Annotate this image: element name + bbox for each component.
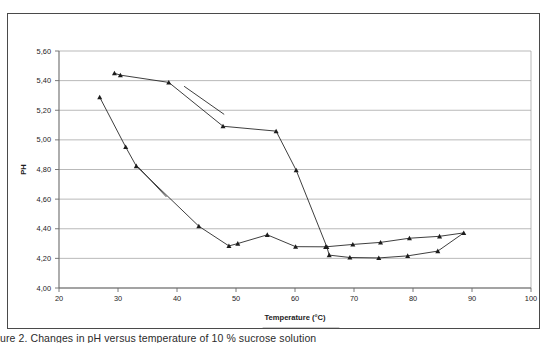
y-tick-label: 4,00 [37,284,51,293]
x-tick-label: 70 [350,294,358,303]
x-tick-label: 40 [173,294,181,303]
data-series-group [100,73,464,258]
y-tick-label: 4,20 [37,254,51,263]
y-tick-label: 5,20 [37,106,51,115]
x-tick-label: 20 [55,294,63,303]
data-point-marker [123,144,128,149]
data-point-marker [265,232,270,237]
x-tick-labels: 2030405060708090100 [55,294,537,303]
data-point-marker [461,230,466,235]
y-tick-labels: 4,004,204,404,604,805,005,205,405,60 [37,47,51,293]
y-tick-label: 5,40 [37,76,51,85]
chart-frame: 2030405060708090100 4,004,204,404,604,80… [7,13,540,329]
data-point-markers [97,71,466,260]
x-tick-label: 80 [409,294,417,303]
x-tick-label: 90 [468,294,476,303]
gridlines [59,51,531,288]
x-tick-label: 30 [114,294,122,303]
data-point-marker [294,168,299,173]
y-tick-label: 5,00 [37,135,51,144]
ph-temperature-line-chart: 2030405060708090100 4,004,204,404,604,80… [8,14,539,328]
y-axis-title: PH [19,164,28,175]
data-point-marker [112,71,117,76]
y-tick-label: 4,40 [37,224,51,233]
data-point-marker [134,164,139,169]
x-tick-label: 60 [291,294,299,303]
x-axis-ticks [59,288,531,292]
data-point-marker [435,249,440,254]
y-tick-label: 4,80 [37,165,51,174]
y-tick-label: 4,60 [37,195,51,204]
x-tick-label: 100 [525,294,537,303]
data-point-marker [97,95,102,100]
figure-caption: ure 2. Changes in pH versus temperature … [0,332,547,343]
y-tick-label: 5,60 [37,47,51,56]
series-line [100,73,464,258]
y-axis-ticks [55,51,59,288]
x-tick-label: 50 [232,294,240,303]
figure-container: 2030405060708090100 4,004,204,404,604,80… [0,0,547,343]
x-axis-title: Temperature (°C) [264,313,326,322]
series-line [138,167,166,197]
